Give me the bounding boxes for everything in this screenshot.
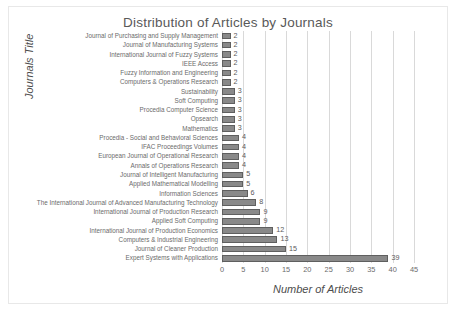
bar[interactable] [222, 209, 260, 216]
bar-row: International Journal of Production Rese… [222, 207, 414, 216]
bar-row: Journal of Purchasing and Supply Managem… [222, 31, 414, 40]
bar-row: Mathematics3 [222, 124, 414, 133]
category-label: Applied Soft Computing [152, 216, 218, 225]
bar[interactable] [222, 162, 239, 169]
category-label: Applied Mathematical Modelling [129, 179, 218, 188]
category-label: Expert Systems with Applications [126, 253, 218, 262]
bar-row: Information Sciences6 [222, 189, 414, 198]
bar-row: Journal of Cleaner Production15 [222, 244, 414, 253]
bar-row: The International Journal of Advanced Ma… [222, 198, 414, 207]
bar-row: International Journal of Production Econ… [222, 226, 414, 235]
x-tick-label: 35 [367, 265, 375, 274]
bar-row: European Journal of Operational Research… [222, 151, 414, 160]
x-tick-label: 0 [220, 265, 224, 274]
bar-row: IEEE Access2 [222, 59, 414, 68]
bar[interactable] [222, 172, 243, 179]
category-label: European Journal of Operational Research [98, 151, 218, 160]
bar-value-label: 2 [234, 40, 238, 49]
bar-value-label: 9 [263, 207, 267, 216]
bar-row: Journal of Intelligent Manufacturing5 [222, 170, 414, 179]
bar-row: Procedia Computer Science3 [222, 105, 414, 114]
x-tick-label: 40 [389, 265, 397, 274]
bar[interactable] [222, 51, 231, 58]
bar[interactable] [222, 42, 231, 49]
bar-value-label: 13 [280, 234, 288, 243]
bar-value-label: 9 [263, 216, 267, 225]
category-label: Computers & Industrial Engineering [119, 235, 218, 244]
x-tick-label: 30 [346, 265, 354, 274]
x-tick-label: 45 [410, 265, 418, 274]
bar-value-label: 39 [391, 253, 399, 262]
x-tick-label: 10 [261, 265, 269, 274]
category-label: Soft Computing [175, 96, 218, 105]
bar-row: Computers & Operations Research2 [222, 77, 414, 86]
bar[interactable] [222, 144, 239, 151]
bar[interactable] [222, 60, 231, 67]
bar[interactable] [222, 135, 239, 142]
bar[interactable] [222, 97, 235, 104]
bar-value-label: 15 [289, 244, 297, 253]
bar[interactable] [222, 181, 243, 188]
bar-value-label: 2 [234, 77, 238, 86]
bar-rows: Journal of Purchasing and Supply Managem… [222, 31, 414, 263]
bar-value-label: 6 [251, 188, 255, 197]
bar-row: Soft Computing3 [222, 96, 414, 105]
gridline-45 [414, 31, 415, 263]
bar-row: Procedia - Social and Behavioral Science… [222, 133, 414, 142]
bar-value-label: 2 [234, 68, 238, 77]
bar[interactable] [222, 70, 231, 77]
category-label: Annals of Operations Research [130, 161, 218, 170]
x-tick-label: 25 [325, 265, 333, 274]
bar-value-label: 3 [238, 86, 242, 95]
category-label: International Journal of Production Rese… [93, 207, 218, 216]
bar[interactable] [222, 246, 286, 253]
bar-value-label: 2 [234, 49, 238, 58]
bar[interactable] [222, 79, 231, 86]
x-axis-title: Number of Articles [222, 283, 414, 295]
bar[interactable] [222, 88, 235, 95]
bar-value-label: 5 [246, 179, 250, 188]
bar-value-label: 5 [246, 169, 250, 178]
bar-value-label: 3 [238, 114, 242, 123]
bar-value-label: 3 [238, 95, 242, 104]
category-label: Journal of Cleaner Production [135, 244, 218, 253]
y-axis-title: Journals Title [23, 34, 35, 99]
bar[interactable] [222, 255, 388, 262]
bar-value-label: 3 [238, 105, 242, 114]
category-label: Fuzzy Information and Engineering [120, 68, 218, 77]
bar-value-label: 4 [242, 142, 246, 151]
bar[interactable] [222, 218, 260, 225]
category-label: Procedia Computer Science [140, 105, 218, 114]
bar-row: International Journal of Fuzzy Systems2 [222, 50, 414, 59]
category-label: Mathematics [182, 124, 218, 133]
category-label: Information Sciences [159, 189, 218, 198]
bar[interactable] [222, 227, 273, 234]
bar[interactable] [222, 107, 235, 114]
bar[interactable] [222, 125, 235, 132]
category-label: Computers & Operations Research [120, 77, 218, 86]
category-label: The International Journal of Advanced Ma… [37, 198, 218, 207]
bar-value-label: 4 [242, 160, 246, 169]
bar-value-label: 8 [259, 197, 263, 206]
bar[interactable] [222, 116, 235, 123]
bar-value-label: 4 [242, 151, 246, 160]
x-tick-label: 5 [241, 265, 245, 274]
bar-row: Opsearch3 [222, 114, 414, 123]
bar[interactable] [222, 153, 239, 160]
bar-row: Journal of Manufacturing Systems2 [222, 40, 414, 49]
category-label: International Journal of Fuzzy Systems [110, 50, 219, 59]
x-axis-ticks: 051015202530354045 [222, 265, 414, 277]
bar[interactable] [222, 199, 256, 206]
bar-row: Applied Soft Computing9 [222, 216, 414, 225]
bar-row: Sustainability3 [222, 87, 414, 96]
x-tick-label: 20 [303, 265, 311, 274]
bar-value-label: 4 [242, 132, 246, 141]
category-label: International Journal of Production Econ… [90, 226, 218, 235]
bar[interactable] [222, 33, 231, 40]
category-label: Procedia - Social and Behavioral Science… [99, 133, 218, 142]
bar-row: Computers & Industrial Engineering13 [222, 235, 414, 244]
bar[interactable] [222, 190, 248, 197]
bar-value-label: 2 [234, 58, 238, 67]
bar[interactable] [222, 236, 277, 243]
bar-row: IFAC Proceedings Volumes4 [222, 142, 414, 151]
